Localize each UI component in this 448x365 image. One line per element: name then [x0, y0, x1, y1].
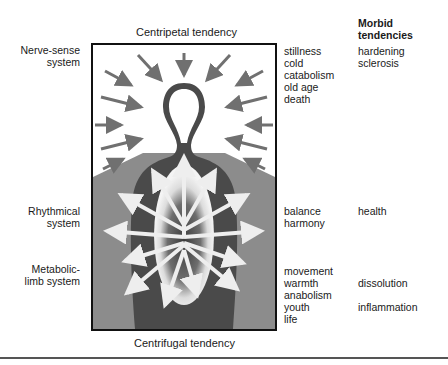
quality-item: stillness — [284, 45, 334, 57]
quality-item: movement — [284, 265, 333, 277]
qualities-metabolic: movement warmth anabolism youth life — [284, 265, 333, 325]
system-label-line: Metabolic- — [25, 263, 80, 275]
centrifugal-label: Centrifugal tendency — [134, 337, 235, 349]
system-label-line: limb system — [25, 275, 80, 287]
qualities-rhythmical: balance harmony — [284, 205, 325, 229]
qualities-nerve-sense: stillness cold catabolism old age death — [284, 45, 334, 105]
system-label-line: system — [28, 217, 80, 229]
morbid-heading: Morbid tendencies — [358, 17, 413, 41]
quality-item: catabolism — [284, 69, 334, 81]
quality-item: life — [284, 313, 333, 325]
morbid-item: hardening — [358, 45, 405, 57]
morbid-item: sclerosis — [358, 57, 405, 69]
system-label-line: Rhythmical — [28, 205, 80, 217]
morbid-item: health — [358, 205, 387, 217]
morbid-inflammation: inflammation — [358, 301, 418, 313]
quality-item: old age — [284, 81, 334, 93]
morbid-nerve-sense: hardening sclerosis — [358, 45, 405, 69]
morbid-heading-line1: Morbid — [358, 17, 413, 29]
morbid-dissolution: dissolution — [358, 277, 408, 289]
system-label-line: system — [20, 56, 80, 68]
human-figure-illustration — [93, 45, 275, 329]
quality-item: harmony — [284, 217, 325, 229]
centripetal-label: Centripetal tendency — [136, 26, 237, 38]
quality-item: youth — [284, 301, 333, 313]
quality-item: anabolism — [284, 289, 333, 301]
quality-item: balance — [284, 205, 325, 217]
morbid-heading-line2: tendencies — [358, 29, 413, 41]
system-label-rhythmical: Rhythmical system — [28, 205, 80, 229]
quality-item: warmth — [284, 277, 333, 289]
system-label-nerve-sense: Nerve-sense system — [20, 44, 80, 68]
figure-frame — [91, 43, 277, 331]
morbid-rhythmical: health — [358, 205, 387, 217]
quality-item: death — [284, 93, 334, 105]
bottom-divider — [0, 357, 448, 359]
system-label-line: Nerve-sense — [20, 44, 80, 56]
system-label-metabolic-limb: Metabolic- limb system — [25, 263, 80, 287]
quality-item: cold — [284, 57, 334, 69]
